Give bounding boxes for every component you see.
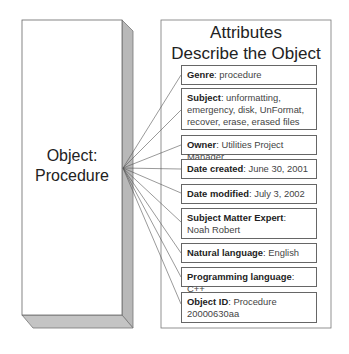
attribute-key: Natural language [187, 247, 263, 258]
panel-title-line1: Attributes [161, 22, 331, 43]
attribute-date-modified: Date modified: July 3, 2002 [181, 184, 317, 204]
attribute-value: English [268, 247, 299, 258]
attribute-subject: Subject: unformatting, emergency, disk, … [181, 88, 317, 130]
attribute-key: Subject [187, 92, 221, 103]
attribute-subject-matter-expert: Subject Matter Expert: Noah Robert [181, 208, 317, 239]
attribute-key: Genre [187, 69, 214, 80]
attribute-natural-language: Natural language: English [181, 243, 317, 263]
object-label-line2: Procedure [22, 166, 122, 186]
panel-title: Attributes Describe the Object [161, 22, 331, 64]
attribute-date-created: Date created: June 30, 2001 [181, 159, 317, 179]
object-label: Object: Procedure [22, 146, 122, 186]
attribute-key: Object ID [187, 296, 228, 307]
attribute-key: Subject Matter Expert [187, 212, 283, 223]
attribute-value: June 30, 2001 [249, 163, 308, 174]
attribute-value: Noah Robert [187, 224, 240, 235]
attribute-key: Owner [187, 139, 216, 150]
attribute-value: July 3, 2002 [254, 188, 305, 199]
attribute-value: procedure [219, 69, 261, 80]
attribute-key: Date modified [187, 188, 249, 199]
attribute-genre: Genre: procedure [181, 65, 317, 85]
attribute-key: Programming language [187, 271, 292, 282]
object-bottom-face [22, 315, 133, 328]
object-side-face [122, 20, 133, 328]
attribute-owner: Owner: Utilities Project Manager [181, 135, 317, 155]
panel-title-line2: Describe the Object [161, 43, 331, 64]
object-label-line1: Object: [22, 146, 122, 166]
attribute-key: Date created [187, 163, 243, 174]
attribute-object-id: Object ID: Procedure 20000630aa [181, 292, 317, 323]
attribute-programming-language: Programming language: C++ [181, 267, 317, 287]
